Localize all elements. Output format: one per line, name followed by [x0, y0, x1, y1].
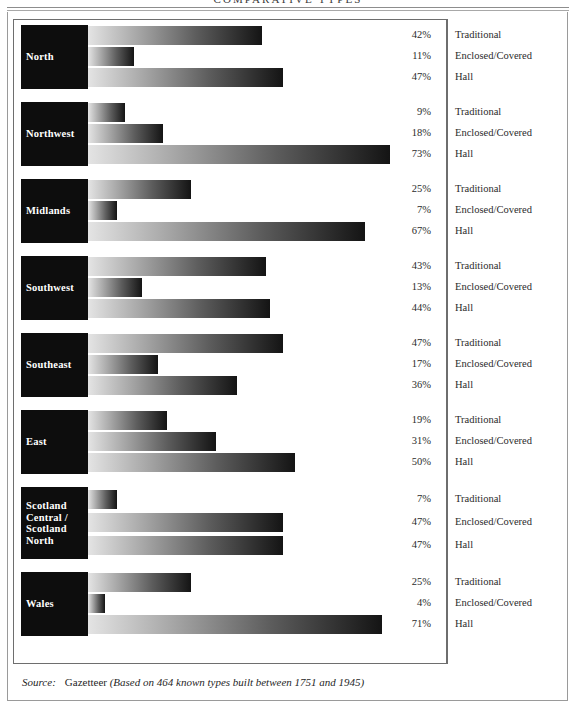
bar-legend-label: Enclosed/Covered	[455, 281, 532, 292]
bar-legend-label: Enclosed/Covered	[455, 204, 532, 215]
bar-legend-label: Hall	[455, 456, 473, 467]
bar-value-label: 50%	[412, 456, 431, 467]
bar	[88, 573, 191, 592]
chart-group: Southwest43%13%44%TraditionalEnclosed/Co…	[13, 250, 576, 327]
group-values: 43%13%44%	[373, 256, 441, 320]
bar	[88, 355, 158, 374]
bar-value-label: 4%	[417, 597, 431, 608]
bar-value-label: 47%	[412, 516, 431, 527]
bar-value-label: 71%	[412, 618, 431, 629]
bar-legend-label: Traditional	[455, 260, 501, 271]
group-region-label: Southeast	[21, 333, 88, 397]
bar	[88, 411, 167, 430]
bar-value-label: 13%	[412, 281, 431, 292]
bar	[88, 513, 283, 532]
group-legends: TraditionalEnclosed/CoveredHall	[455, 572, 576, 636]
bar	[88, 334, 283, 353]
bar-value-label: 47%	[412, 71, 431, 82]
bar-value-label: 19%	[412, 414, 431, 425]
bar-value-label: 7%	[417, 493, 431, 504]
group-legends: TraditionalEnclosed/CoveredHall	[455, 179, 576, 243]
bar	[88, 278, 142, 297]
bar-value-label: 42%	[412, 29, 431, 40]
group-values: 9%18%73%	[373, 102, 441, 166]
bar-legend-label: Traditional	[455, 106, 501, 117]
bar	[88, 299, 270, 318]
bar-legend-label: Hall	[455, 302, 473, 313]
bar	[88, 536, 283, 555]
bar-legend-label: Hall	[455, 71, 473, 82]
group-region-label: East	[21, 410, 88, 474]
region-label-text: Northwest	[26, 128, 74, 140]
group-values: 47%17%36%	[373, 333, 441, 397]
group-values: 25%7%67%	[373, 179, 441, 243]
group-legends: TraditionalEnclosed/CoveredHall	[455, 25, 576, 89]
bar	[88, 26, 262, 45]
page-title: COMPARATIVE TYPES	[0, 0, 576, 5]
bar	[88, 124, 163, 143]
group-region-label: Northwest	[21, 102, 88, 166]
chart-groups: North42%11%47%TraditionalEnclosed/Covere…	[13, 19, 576, 664]
bar	[88, 145, 390, 164]
bar-legend-label: Enclosed/Covered	[455, 516, 532, 527]
bar	[88, 222, 365, 241]
group-legends: TraditionalEnclosed/CoveredHall	[455, 102, 576, 166]
region-label-text: Wales	[26, 598, 54, 610]
bar-value-label: 67%	[412, 225, 431, 236]
bar-value-label: 43%	[412, 260, 431, 271]
group-legends: TraditionalEnclosed/CoveredHall	[455, 487, 576, 559]
source-line: Source:Gazetteer (Based on 464 known typ…	[22, 676, 364, 688]
region-label-text: North	[26, 51, 54, 63]
chart-group: ScotlandCentral /ScotlandNorth7%47%47%Tr…	[13, 481, 576, 566]
bar	[88, 453, 295, 472]
bar-value-label: 9%	[417, 106, 431, 117]
region-label-text: East	[26, 436, 47, 448]
group-legends: TraditionalEnclosed/CoveredHall	[455, 333, 576, 397]
bar-legend-label: Hall	[455, 225, 473, 236]
group-values: 7%47%47%	[373, 487, 441, 559]
group-region-label: ScotlandCentral /ScotlandNorth	[21, 487, 88, 559]
bar-value-label: 18%	[412, 127, 431, 138]
group-region-label: North	[21, 25, 88, 89]
source-label: Source:	[22, 676, 56, 688]
bar-value-label: 47%	[412, 337, 431, 348]
group-values: 25%4%71%	[373, 572, 441, 636]
bar-value-label: 44%	[412, 302, 431, 313]
bar	[88, 180, 191, 199]
bar-legend-label: Traditional	[455, 576, 501, 587]
group-region-label: Southwest	[21, 256, 88, 320]
bar	[88, 376, 237, 395]
bar-legend-label: Traditional	[455, 183, 501, 194]
source-name: Gazetteer	[65, 676, 107, 688]
region-label-text: Southwest	[26, 282, 74, 294]
top-rule-primary	[7, 7, 569, 8]
bar-value-label: 31%	[412, 435, 431, 446]
bar	[88, 47, 134, 66]
region-label-text: ScotlandCentral /ScotlandNorth	[26, 500, 68, 546]
bar-legend-label: Traditional	[455, 29, 501, 40]
chart-group: Midlands25%7%67%TraditionalEnclosed/Cove…	[13, 173, 576, 250]
bar-value-label: 36%	[412, 379, 431, 390]
bar	[88, 490, 117, 509]
chart-group: East19%31%50%TraditionalEnclosed/Covered…	[13, 404, 576, 481]
bar-value-label: 7%	[417, 204, 431, 215]
group-legends: TraditionalEnclosed/CoveredHall	[455, 410, 576, 474]
bar-legend-label: Traditional	[455, 414, 501, 425]
bar-value-label: 17%	[412, 358, 431, 369]
group-legends: TraditionalEnclosed/CoveredHall	[455, 256, 576, 320]
bar-legend-label: Hall	[455, 379, 473, 390]
chart-group: Wales25%4%71%TraditionalEnclosed/Covered…	[13, 566, 576, 643]
bar-legend-label: Traditional	[455, 493, 501, 504]
group-region-label: Wales	[21, 572, 88, 636]
bar-legend-label: Enclosed/Covered	[455, 597, 532, 608]
bar	[88, 103, 125, 122]
bar-value-label: 47%	[412, 539, 431, 550]
bar	[88, 68, 283, 87]
bar-legend-label: Enclosed/Covered	[455, 50, 532, 61]
group-values: 42%11%47%	[373, 25, 441, 89]
bar	[88, 615, 382, 634]
bar	[88, 201, 117, 220]
bar-legend-label: Traditional	[455, 337, 501, 348]
bar-legend-label: Enclosed/Covered	[455, 358, 532, 369]
top-rule-secondary	[7, 10, 569, 11]
